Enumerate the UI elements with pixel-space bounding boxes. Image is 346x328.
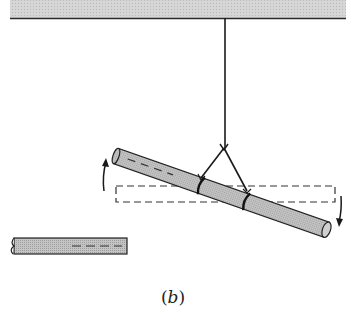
ceiling — [10, 0, 346, 19]
small-rod — [11, 238, 127, 254]
rod-rotation-diagram — [0, 0, 346, 328]
arrow-down-icon — [336, 196, 343, 227]
caption-letter: b — [168, 287, 179, 307]
figure-caption: (b) — [0, 287, 346, 307]
arrow-up-icon — [102, 158, 109, 191]
tilted-rod — [110, 147, 333, 240]
